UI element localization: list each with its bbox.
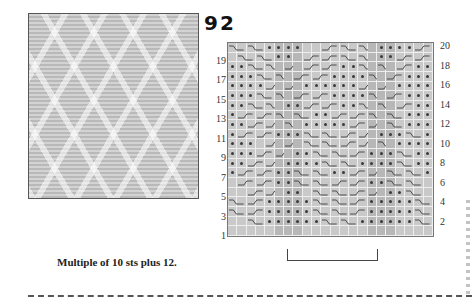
chart-cell xyxy=(386,53,395,63)
chart-cell xyxy=(405,168,414,178)
chart-cell xyxy=(321,207,330,217)
chart-cell xyxy=(424,217,433,227)
purl-dot-icon xyxy=(268,200,271,203)
purl-dot-icon xyxy=(231,104,234,107)
chart-cell xyxy=(265,188,274,198)
row-label: 19 xyxy=(206,55,226,66)
chart-cell xyxy=(293,120,302,130)
chart-cell xyxy=(340,178,349,188)
chart-cell xyxy=(340,197,349,207)
chart-cell xyxy=(377,82,386,92)
purl-dot-icon xyxy=(231,171,234,174)
chart-cell xyxy=(368,159,377,169)
purl-dot-icon xyxy=(417,113,420,116)
chart-cell xyxy=(256,72,265,82)
chart-cell xyxy=(358,82,367,92)
chart-cell xyxy=(358,43,367,53)
chart-cell xyxy=(303,43,312,53)
chart-cell xyxy=(303,207,312,217)
chart-cell xyxy=(368,91,377,101)
chart-cell xyxy=(386,178,395,188)
chart-cell xyxy=(331,43,340,53)
purl-dot-icon xyxy=(268,220,271,223)
chart-cell xyxy=(275,111,284,121)
chart-cell xyxy=(424,207,433,217)
chart-cell xyxy=(331,226,340,236)
purl-dot-icon xyxy=(240,65,243,68)
purl-dot-icon xyxy=(389,191,392,194)
chart-cell xyxy=(284,159,293,169)
chart-cell xyxy=(256,82,265,92)
chart-cell xyxy=(358,226,367,236)
chart-cell xyxy=(349,53,358,63)
chart-cell xyxy=(293,188,302,198)
chart-cell xyxy=(377,130,386,140)
chart-cell xyxy=(237,217,246,227)
chart-cell xyxy=(303,91,312,101)
purl-dot-icon xyxy=(417,65,420,68)
purl-dot-icon xyxy=(417,162,420,165)
chart-cell xyxy=(321,139,330,149)
chart-cell xyxy=(228,62,237,72)
purl-dot-icon xyxy=(287,162,290,165)
purl-dot-icon xyxy=(231,84,234,87)
purl-dot-icon xyxy=(333,94,336,97)
chart-cell xyxy=(247,82,256,92)
purl-dot-icon xyxy=(277,133,280,136)
purl-dot-icon xyxy=(361,94,364,97)
chart-cell xyxy=(275,197,284,207)
chart-cell xyxy=(303,72,312,82)
chart-cell xyxy=(284,62,293,72)
purl-dot-icon xyxy=(352,65,355,68)
chart-cell xyxy=(424,178,433,188)
purl-dot-icon xyxy=(296,133,299,136)
chart-cell xyxy=(349,159,358,169)
chart-cell xyxy=(340,188,349,198)
chart-cell xyxy=(237,111,246,121)
chart-cell xyxy=(368,168,377,178)
purl-dot-icon xyxy=(287,181,290,184)
chart-cell xyxy=(265,178,274,188)
chart-cell xyxy=(396,159,405,169)
purl-dot-icon xyxy=(296,104,299,107)
purl-dot-icon xyxy=(389,133,392,136)
purl-dot-icon xyxy=(417,123,420,126)
chart-cell xyxy=(414,43,423,53)
chart-cell xyxy=(414,120,423,130)
purl-dot-icon xyxy=(417,84,420,87)
purl-dot-icon xyxy=(231,142,234,145)
purl-dot-icon xyxy=(380,210,383,213)
purl-dot-icon xyxy=(426,94,429,97)
chart-cell xyxy=(237,53,246,63)
chart-cell xyxy=(237,43,246,53)
chart-cell xyxy=(349,62,358,72)
purl-dot-icon xyxy=(240,104,243,107)
purl-dot-icon xyxy=(398,84,401,87)
chart-cell xyxy=(312,197,321,207)
chart-cell xyxy=(275,217,284,227)
chart-cell xyxy=(228,178,237,188)
chart-cell xyxy=(228,120,237,130)
chart-cell xyxy=(414,217,423,227)
purl-dot-icon xyxy=(361,162,364,165)
chart-cell xyxy=(386,168,395,178)
purl-dot-icon xyxy=(315,162,318,165)
chart-cell xyxy=(228,207,237,217)
purl-dot-icon xyxy=(426,152,429,155)
chart-cell xyxy=(293,226,302,236)
chart-cell xyxy=(284,120,293,130)
chart-cell xyxy=(284,207,293,217)
chart-cell xyxy=(386,101,395,111)
chart-cell xyxy=(386,130,395,140)
stitch-chart xyxy=(227,42,434,237)
chart-cell xyxy=(275,168,284,178)
chart-cell xyxy=(247,226,256,236)
purl-dot-icon xyxy=(296,152,299,155)
chart-cell xyxy=(265,101,274,111)
chart-cell xyxy=(228,188,237,198)
purl-dot-icon xyxy=(240,123,243,126)
chart-cell xyxy=(312,226,321,236)
chart-cell xyxy=(284,53,293,63)
chart-cell xyxy=(340,168,349,178)
chart-cell xyxy=(256,130,265,140)
